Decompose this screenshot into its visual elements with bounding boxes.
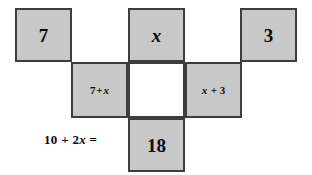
cell-middle-right: x + 3 [185,62,242,118]
math-pyramid-diagram: 7 x 3 7 + x x + 3 18 10 + 2x = [0,0,312,175]
cell-top-right: 3 [240,8,297,62]
cell-middle-right-value: x + 3 [202,85,226,96]
equation-operator: = [86,132,97,147]
cell-bottom: 18 [128,118,185,172]
cell-top-left-value: 7 [39,26,49,45]
equation-variable: x [79,132,86,147]
cell-bottom-value: 18 [147,136,166,155]
cell-top-right-value: 3 [264,26,274,45]
equation-lead: 10 + 2 [44,132,79,147]
cell-middle-left-term: 7 + [90,84,104,96]
cell-top-middle-value: x [152,26,162,45]
cell-middle-right-term: + 3 [207,84,225,96]
cell-middle-left-variable: x [104,84,110,96]
equation-label: 10 + 2x = [44,132,97,148]
cell-middle-center [128,62,185,118]
cell-top-middle: x [128,8,185,62]
cell-middle-left-value: 7 + x [90,85,109,96]
cell-top-left: 7 [15,8,72,62]
cell-middle-left: 7 + x [71,62,128,118]
